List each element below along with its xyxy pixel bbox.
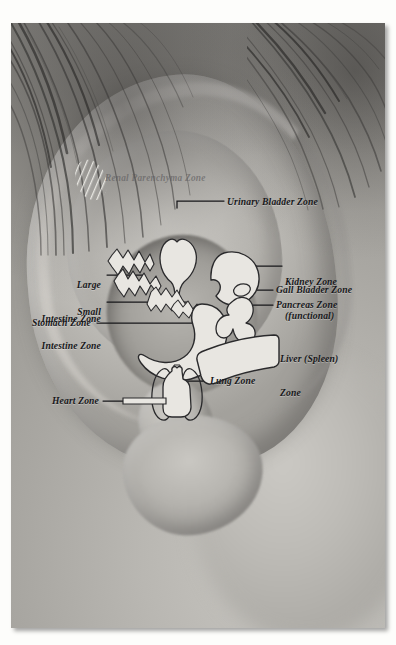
label-stomach-zone: Stomach Zone xyxy=(11,317,91,328)
label-heart-zone: Heart Zone xyxy=(11,395,99,406)
page-root: Renal Parenchyma Zone Urinary Bladder Zo… xyxy=(0,0,396,645)
label-liver-line2: Zone xyxy=(280,387,338,398)
label-liver-spleen-zone: Liver (Spleen) Zone xyxy=(280,331,338,421)
leader-urinary-bladder xyxy=(177,201,224,208)
label-gall-bladder-zone: Gall Bladder Zone xyxy=(276,284,352,295)
label-small-intestine-line2: Intestine Zone xyxy=(11,340,101,351)
label-urinary-bladder-zone: Urinary Bladder Zone xyxy=(227,196,318,207)
label-renal-parenchyma-zone: Renal Parenchyma Zone xyxy=(105,173,206,183)
label-small-intestine-line1: Small xyxy=(11,306,101,317)
label-liver-line1: Liver (Spleen) xyxy=(280,353,338,364)
label-lung-zone: Lung Zone xyxy=(210,375,255,386)
label-pancreas-zone: Pancreas Zone xyxy=(276,299,337,310)
zone-pancreas xyxy=(216,297,255,342)
label-small-intestine-zone: Small Intestine Zone xyxy=(11,284,101,374)
zone-kidney xyxy=(211,252,259,305)
ear-photograph: Renal Parenchyma Zone Urinary Bladder Zo… xyxy=(11,23,385,628)
label-kidney-line2: (functional) xyxy=(285,310,337,321)
